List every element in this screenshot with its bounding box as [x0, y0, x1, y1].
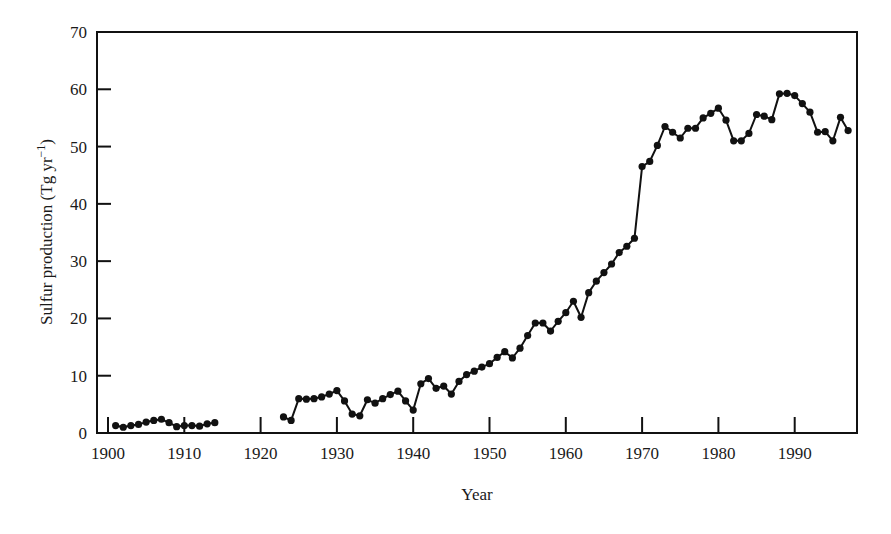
data-point	[402, 397, 409, 404]
data-point	[516, 345, 523, 352]
data-point	[524, 332, 531, 339]
data-point	[181, 422, 188, 429]
data-point	[112, 422, 119, 429]
data-point	[745, 130, 752, 137]
data-point	[669, 129, 676, 136]
data-point	[608, 260, 615, 267]
data-point	[547, 327, 554, 334]
data-point	[509, 354, 516, 361]
data-point	[532, 319, 539, 326]
data-point	[845, 127, 852, 134]
data-point	[829, 137, 836, 144]
data-point	[715, 105, 722, 112]
data-point	[761, 113, 768, 120]
data-point	[425, 375, 432, 382]
data-point	[600, 269, 607, 276]
data-point	[448, 390, 455, 397]
data-point	[722, 117, 729, 124]
data-point	[364, 396, 371, 403]
data-point	[577, 314, 584, 321]
data-point	[204, 420, 211, 427]
x-tick-label: 1960	[549, 444, 583, 463]
data-point	[432, 385, 439, 392]
data-point	[150, 417, 157, 424]
data-point	[585, 289, 592, 296]
y-tick-label: 40	[70, 195, 87, 214]
x-tick-label: 1950	[473, 444, 507, 463]
data-point	[593, 278, 600, 285]
data-point	[837, 114, 844, 121]
data-point	[806, 109, 813, 116]
data-point	[371, 400, 378, 407]
data-point	[555, 318, 562, 325]
data-series	[112, 90, 852, 431]
data-point	[463, 371, 470, 378]
data-point	[120, 424, 127, 431]
data-point	[341, 397, 348, 404]
y-tick-label: 70	[70, 23, 87, 42]
data-point	[356, 412, 363, 419]
data-point	[333, 387, 340, 394]
sulfur-production-chart: 010203040506070 190019101920193019401950…	[0, 0, 891, 534]
data-point	[631, 235, 638, 242]
data-point	[677, 134, 684, 141]
x-tick-label: 1910	[167, 444, 201, 463]
data-point	[326, 390, 333, 397]
data-point	[288, 417, 295, 424]
data-point	[295, 395, 302, 402]
data-point	[822, 128, 829, 135]
data-point	[616, 249, 623, 256]
y-tick-label: 50	[70, 138, 87, 157]
data-point	[379, 395, 386, 402]
data-point	[768, 116, 775, 123]
data-point	[783, 90, 790, 97]
x-tick-label: 1930	[320, 444, 354, 463]
y-tick-label: 10	[70, 367, 87, 386]
data-point	[188, 422, 195, 429]
data-point	[646, 158, 653, 165]
data-point	[173, 423, 180, 430]
data-point	[738, 137, 745, 144]
data-point	[196, 423, 203, 430]
data-point	[486, 360, 493, 367]
data-point	[410, 406, 417, 413]
data-point	[310, 395, 317, 402]
data-point	[165, 419, 172, 426]
data-point	[349, 410, 356, 417]
data-point	[143, 419, 150, 426]
y-tick-label: 0	[79, 424, 88, 443]
series-line-2	[284, 93, 849, 420]
data-point	[700, 114, 707, 121]
data-point	[280, 413, 287, 420]
data-point	[684, 125, 691, 132]
data-point	[791, 92, 798, 99]
data-point	[570, 298, 577, 305]
x-tick-label: 1940	[396, 444, 430, 463]
y-axis-title: Sulfur production (Tg yr−1)	[34, 139, 56, 325]
y-tick-label: 60	[70, 80, 87, 99]
data-point	[776, 90, 783, 97]
data-point	[158, 416, 165, 423]
data-point	[417, 380, 424, 387]
data-point	[387, 391, 394, 398]
data-point	[814, 129, 821, 136]
data-point	[440, 382, 447, 389]
data-point	[471, 368, 478, 375]
data-point	[539, 319, 546, 326]
data-point	[478, 364, 485, 371]
data-point	[623, 243, 630, 250]
data-point	[135, 421, 142, 428]
data-point	[394, 388, 401, 395]
data-point	[707, 110, 714, 117]
data-point	[303, 396, 310, 403]
x-axis-title: Year	[461, 485, 493, 504]
x-tick-label: 1970	[625, 444, 659, 463]
x-tick-label: 1980	[701, 444, 735, 463]
data-point	[654, 142, 661, 149]
data-point	[692, 125, 699, 132]
data-point	[127, 422, 134, 429]
data-point	[211, 419, 218, 426]
y-axis: 010203040506070	[70, 23, 111, 443]
data-point	[494, 354, 501, 361]
data-point	[501, 348, 508, 355]
